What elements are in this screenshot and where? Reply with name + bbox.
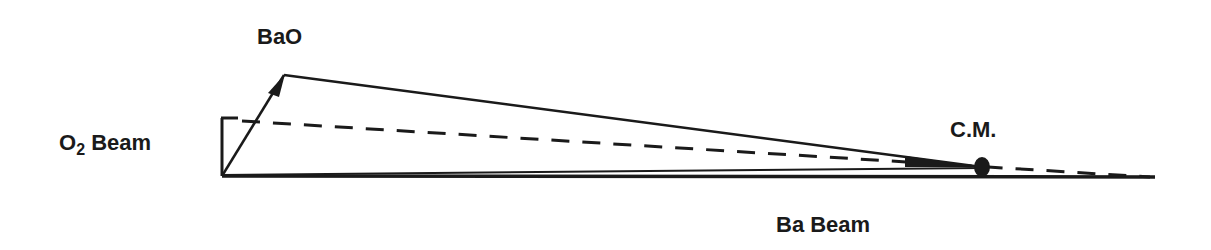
o2-label-suffix: Beam [85, 130, 151, 155]
relative-velocity-line [222, 168, 982, 175]
o2-beam-label: O2 Beam [59, 130, 151, 158]
center-of-mass-label: C.M. [950, 117, 996, 142]
o2-label-subscript: 2 [76, 141, 85, 158]
center-of-mass-dot [974, 157, 990, 177]
ba-beam-vector [222, 176, 1155, 177]
arrow-head-icon [268, 74, 285, 97]
o2-label-main: O [59, 130, 76, 155]
bao-label: BaO [257, 24, 302, 49]
ba-beam-label: Ba Beam [776, 212, 870, 237]
newton-diagram: BaO O2 Beam C.M. Ba Beam [0, 0, 1211, 250]
bao-to-cm-line [284, 75, 982, 167]
